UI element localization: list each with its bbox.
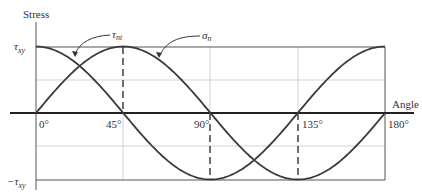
- tau-nt-label: τnt: [112, 28, 123, 42]
- y-tick-bottom: −τxy: [7, 175, 26, 190]
- sigma-n-arrow: [160, 36, 200, 55]
- x-tick-180: 180°: [388, 118, 409, 130]
- x-tick-45: 45°: [106, 118, 121, 130]
- sigma-n-arrowhead-icon: [156, 52, 162, 58]
- tau-nt-arrowhead-icon: [72, 51, 78, 57]
- stress-angle-chart: Stress Angle τxy −τxy 0° 45° 90° 135° 18…: [0, 0, 422, 193]
- tau-nt-arrow: [75, 35, 110, 54]
- x-axis-label: Angle: [392, 98, 419, 110]
- x-tick-0: 0°: [39, 118, 49, 130]
- y-tick-top: τxy: [14, 40, 25, 55]
- annotation-arrows: [75, 35, 200, 55]
- y-axis-label: Stress: [23, 8, 49, 20]
- x-tick-90: 90°: [194, 118, 209, 130]
- frame: [36, 22, 385, 190]
- sigma-n-label: σn: [202, 29, 211, 43]
- x-tick-135: 135°: [302, 118, 323, 130]
